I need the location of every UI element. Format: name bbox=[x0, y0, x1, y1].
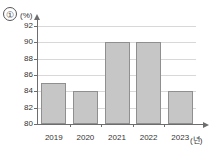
y-axis-tick-labels: 80828486889092 bbox=[0, 0, 33, 154]
x-axis-tick-label: 2022 bbox=[133, 133, 165, 142]
y-axis-tick bbox=[34, 124, 38, 125]
chart-figure: ① (%) (년) 80828486889092 201920202021202… bbox=[0, 0, 217, 154]
x-axis-tick-label: 2021 bbox=[101, 133, 133, 142]
bar bbox=[73, 91, 98, 124]
x-axis-tick bbox=[101, 124, 102, 127]
bar bbox=[136, 42, 161, 124]
bar bbox=[41, 83, 66, 124]
x-axis-line bbox=[37, 124, 204, 125]
y-axis-tick-label: 84 bbox=[3, 87, 33, 95]
y-axis-tick-label: 90 bbox=[3, 38, 33, 46]
bar bbox=[168, 91, 193, 124]
gridline bbox=[38, 26, 196, 27]
x-axis-tick bbox=[70, 124, 71, 127]
y-axis-tick-label: 92 bbox=[3, 22, 33, 30]
x-axis-tick bbox=[133, 124, 134, 127]
y-axis-tick-label: 88 bbox=[3, 55, 33, 63]
x-axis-tick-label: 2019 bbox=[38, 133, 70, 142]
x-axis-arrow-icon bbox=[203, 122, 209, 128]
y-axis-tick-label: 86 bbox=[3, 71, 33, 79]
bar bbox=[105, 42, 130, 124]
plot-area bbox=[38, 26, 196, 124]
x-axis-tick bbox=[164, 124, 165, 127]
x-axis-tick-label: 2020 bbox=[69, 133, 101, 142]
y-axis-tick-label: 82 bbox=[3, 104, 33, 112]
y-axis-tick-label: 80 bbox=[3, 120, 33, 128]
x-axis-tick-label: 2023 bbox=[164, 133, 196, 142]
